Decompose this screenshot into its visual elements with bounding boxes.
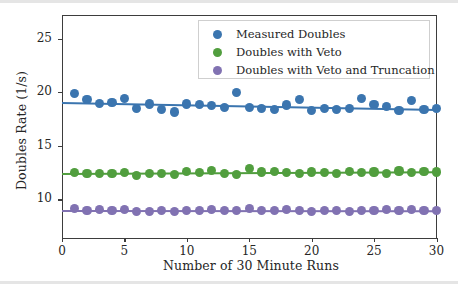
legend-label-measured-doubles: Measured Doubles (236, 27, 345, 41)
legend-item-doubles-with-veto-and-truncation[interactable]: Doubles with Veto and Truncation (199, 63, 435, 77)
data-point-doubles-with-veto (82, 169, 91, 178)
data-point-doubles-with-veto (282, 168, 291, 177)
data-point-measured-doubles (132, 104, 141, 113)
data-point-doubles-with-veto (132, 171, 141, 180)
legend-item-measured-doubles[interactable]: Measured Doubles (199, 27, 345, 41)
data-point-measured-doubles (345, 104, 354, 113)
data-point-doubles-with-veto-and-truncation (107, 206, 116, 215)
x-tick-mark (187, 238, 188, 242)
data-point-doubles-with-veto (382, 169, 391, 178)
data-point-measured-doubles (145, 99, 154, 108)
data-point-measured-doubles (232, 88, 241, 97)
data-point-doubles-with-veto (270, 167, 279, 176)
data-point-doubles-with-veto-and-truncation (382, 205, 391, 214)
data-point-doubles-with-veto-and-truncation (307, 207, 316, 216)
axis-top-spine (62, 15, 437, 16)
data-point-doubles-with-veto (257, 167, 266, 176)
data-point-doubles-with-veto-and-truncation (345, 207, 354, 216)
data-point-doubles-with-veto-and-truncation (407, 205, 416, 214)
data-point-doubles-with-veto (220, 169, 229, 178)
data-point-measured-doubles (220, 103, 229, 112)
data-point-measured-doubles (70, 89, 79, 98)
data-point-doubles-with-veto-and-truncation (257, 206, 266, 215)
data-point-measured-doubles (407, 96, 416, 105)
data-point-measured-doubles (257, 104, 266, 113)
data-point-measured-doubles (107, 98, 116, 107)
scatter-plot-figure: Doubles Rate (1/s) Number of 30 Minute R… (0, 0, 458, 284)
data-point-doubles-with-veto (320, 168, 329, 177)
data-point-doubles-with-veto-and-truncation (320, 206, 329, 215)
data-point-doubles-with-veto (357, 168, 366, 177)
data-point-doubles-with-veto (95, 169, 104, 178)
data-point-measured-doubles (432, 104, 441, 113)
data-point-doubles-with-veto (332, 169, 341, 178)
x-tick-label: 5 (109, 244, 139, 258)
data-point-measured-doubles (120, 94, 129, 103)
data-point-doubles-with-veto (245, 164, 254, 173)
data-point-doubles-with-veto-and-truncation (295, 206, 304, 215)
data-point-doubles-with-veto (432, 167, 441, 176)
data-point-measured-doubles (282, 100, 291, 109)
data-point-measured-doubles (332, 105, 341, 114)
data-point-measured-doubles (295, 95, 304, 104)
legend-swatch-doubles-with-veto-and-truncation (213, 66, 222, 75)
data-point-doubles-with-veto-and-truncation (270, 206, 279, 215)
y-tick-label: 10 (22, 191, 52, 205)
data-point-measured-doubles (369, 100, 378, 109)
y-tick-label: 15 (22, 138, 52, 152)
data-point-doubles-with-veto-and-truncation (332, 206, 341, 215)
data-point-doubles-with-veto-and-truncation (394, 206, 403, 215)
x-tick-mark (62, 238, 63, 242)
data-point-doubles-with-veto-and-truncation (120, 205, 129, 214)
data-point-measured-doubles (207, 101, 216, 110)
data-point-measured-doubles (357, 94, 366, 103)
data-point-doubles-with-veto (70, 168, 79, 177)
data-point-measured-doubles (320, 104, 329, 113)
legend-label-doubles-with-veto: Doubles with Veto (236, 45, 342, 59)
data-point-doubles-with-veto-and-truncation (232, 206, 241, 215)
data-point-doubles-with-veto-and-truncation (207, 205, 216, 214)
data-point-doubles-with-veto-and-truncation (182, 206, 191, 215)
data-point-doubles-with-veto (369, 167, 378, 176)
data-point-measured-doubles (245, 103, 254, 112)
data-point-doubles-with-veto (345, 167, 354, 176)
data-point-doubles-with-veto-and-truncation (245, 204, 254, 213)
x-tick-mark (374, 238, 375, 242)
data-point-doubles-with-veto-and-truncation (369, 206, 378, 215)
y-tick-mark (58, 146, 62, 147)
x-tick-label: 30 (422, 244, 452, 258)
data-point-measured-doubles (157, 105, 166, 114)
data-point-doubles-with-veto (120, 168, 129, 177)
data-point-doubles-with-veto (195, 168, 204, 177)
data-point-measured-doubles (182, 99, 191, 108)
data-point-doubles-with-veto-and-truncation (95, 205, 104, 214)
data-point-doubles-with-veto (307, 167, 316, 176)
data-point-doubles-with-veto (407, 168, 416, 177)
data-point-measured-doubles (307, 106, 316, 115)
data-point-measured-doubles (95, 99, 104, 108)
x-tick-mark (437, 238, 438, 242)
x-axis-label: Number of 30 Minute Runs (22, 258, 458, 273)
x-tick-mark (312, 238, 313, 242)
y-tick-label: 25 (22, 31, 52, 45)
legend-box[interactable]: Measured Doubles Doubles with Veto Doubl… (198, 20, 430, 79)
data-point-measured-doubles (394, 106, 403, 115)
data-point-doubles-with-veto (170, 170, 179, 179)
x-tick-mark (249, 238, 250, 242)
data-point-doubles-with-veto-and-truncation (157, 206, 166, 215)
x-tick-mark (124, 238, 125, 242)
data-point-doubles-with-veto-and-truncation (132, 207, 141, 216)
chart-screenshot: Doubles Rate (1/s) Number of 30 Minute R… (0, 0, 458, 284)
y-tick-label: 20 (22, 84, 52, 98)
data-point-doubles-with-veto-and-truncation (145, 207, 154, 216)
legend-swatch-measured-doubles (213, 30, 222, 39)
legend-item-doubles-with-veto[interactable]: Doubles with Veto (199, 45, 342, 59)
x-tick-label: 20 (297, 244, 327, 258)
y-tick-mark (58, 199, 62, 200)
data-point-doubles-with-veto-and-truncation (432, 206, 441, 215)
data-point-doubles-with-veto (182, 167, 191, 176)
data-point-doubles-with-veto-and-truncation (82, 206, 91, 215)
y-tick-mark (58, 92, 62, 93)
data-point-measured-doubles (419, 105, 428, 114)
x-tick-label: 15 (234, 244, 264, 258)
